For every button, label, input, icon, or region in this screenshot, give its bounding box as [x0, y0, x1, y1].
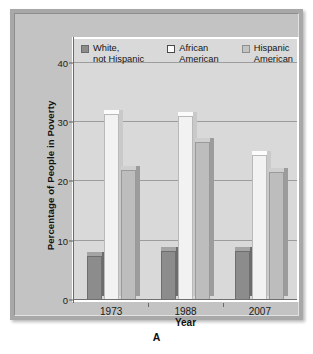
bar-2007-african-american — [252, 155, 267, 300]
axis-baseline — [74, 299, 297, 300]
y-axis-title: Percentage of People in Poverty — [45, 71, 56, 281]
legend-item-0: White, not Hispanic — [81, 43, 144, 64]
bar-face — [121, 170, 136, 300]
bar-face — [269, 172, 284, 300]
bar-face — [235, 251, 250, 300]
x-tick-label-1988: 1988 — [156, 306, 216, 317]
bar-side-face — [136, 166, 140, 296]
legend-item-2: Hispanic American — [242, 43, 293, 64]
bar-side-face — [284, 168, 288, 296]
legend-item-label: African American — [179, 43, 218, 64]
bar-1973-hispanic-american — [121, 170, 136, 300]
chart-inner-frame: 010203040 197319882007 Percentage of Peo… — [14, 13, 299, 316]
legend-swatch-light-gray-icon — [242, 45, 250, 53]
figure-panel: 010203040 197319882007 Percentage of Peo… — [0, 0, 313, 354]
bar-1988-african-american — [178, 116, 193, 300]
y-tick-mark-30 — [69, 122, 73, 123]
legend-item-1: African American — [167, 43, 218, 64]
y-tick-label-40: 40 — [44, 57, 68, 68]
chart-legend: White, not HispanicAfrican AmericanHispa… — [81, 43, 293, 64]
x-tick-label-2007: 2007 — [230, 306, 290, 317]
bar-1973-african-american — [104, 114, 119, 300]
bar-face — [178, 116, 193, 300]
bar-face — [87, 256, 102, 300]
chart-outer-frame: 010203040 197319882007 Percentage of Peo… — [10, 9, 303, 320]
bar-face — [161, 251, 176, 300]
x-tick-mark-2 — [223, 303, 224, 307]
plot-area — [74, 39, 297, 300]
y-axis-line — [73, 37, 74, 303]
bar-side-face — [210, 138, 214, 296]
legend-item-label: Hispanic American — [254, 43, 293, 64]
x-axis-title: Year — [72, 317, 299, 328]
x-tick-label-1973: 1973 — [81, 306, 141, 317]
bar-2007-white-not-hispanic — [235, 251, 250, 300]
y-tick-mark-20 — [69, 181, 73, 182]
legend-swatch-dark-gray-icon — [81, 45, 89, 53]
bar-face — [104, 114, 119, 300]
bar-face — [195, 142, 210, 300]
legend-item-label: White, not Hispanic — [93, 43, 144, 64]
panel-letter: A — [0, 331, 313, 343]
y-tick-mark-10 — [69, 240, 73, 241]
y-tick-mark-0 — [69, 300, 73, 301]
y-tick-label-0: 0 — [44, 295, 68, 306]
bar-2007-hispanic-american — [269, 172, 284, 300]
legend-swatch-white-icon — [167, 45, 175, 53]
chart-canvas: 010203040 197319882007 Percentage of Peo… — [29, 27, 306, 329]
y-tick-mark-40 — [69, 62, 73, 63]
bar-1988-white-not-hispanic — [161, 251, 176, 300]
bar-face — [252, 155, 267, 300]
bar-1988-hispanic-american — [195, 142, 210, 300]
bar-1973-white-not-hispanic — [87, 256, 102, 300]
x-tick-mark-1 — [148, 303, 149, 307]
